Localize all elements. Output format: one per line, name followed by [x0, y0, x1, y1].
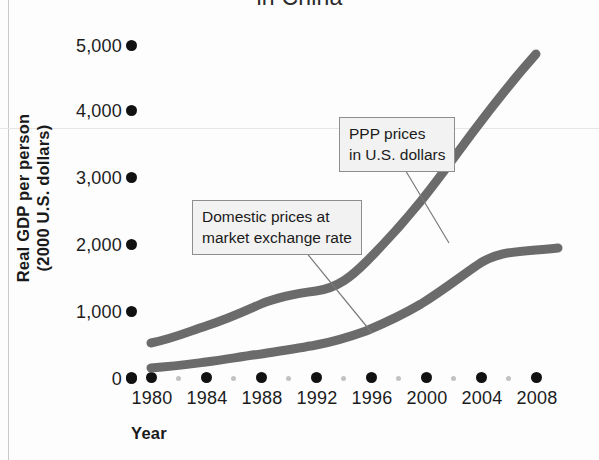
annotation-ppp-line2: in U.S. dollars [349, 146, 445, 163]
annotation-ppp-prices: PPP prices in U.S. dollars [339, 117, 455, 172]
annotation-domestic-line1: Domestic prices at [202, 208, 329, 225]
chart-figure: in China Real GDP per person (2000 U.S. … [0, 0, 599, 460]
annotation-domestic-line2: market exchange rate [202, 229, 352, 246]
annotation-domestic-prices: Domestic prices at market exchange rate [192, 200, 362, 255]
series-line-ppp [151, 54, 536, 343]
annotation-ppp-line1: PPP prices [349, 125, 425, 142]
series-line-domestic [151, 248, 558, 368]
